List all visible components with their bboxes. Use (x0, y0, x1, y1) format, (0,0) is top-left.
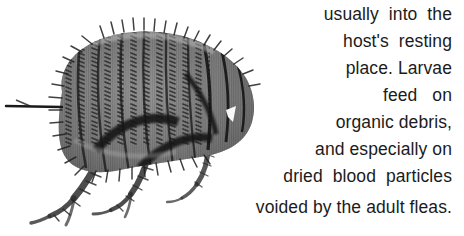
caption-line-3: place. Larvae (346, 58, 452, 78)
figure-page: usually into the host's resting place. L… (0, 0, 464, 236)
caption-line-6: and especially on (315, 139, 452, 159)
caption-line-8: voided by the adult fleas. (256, 197, 452, 217)
caption-line-4: feed on (383, 85, 452, 105)
caption-line-5: organic debris, (336, 112, 452, 132)
caption-line-7: dried blood particles (283, 166, 452, 186)
caption-line-1: usually into the (324, 4, 452, 24)
caption-text-block: usually into the host's resting place. L… (0, 0, 464, 236)
caption-line-2: host's resting (343, 31, 452, 51)
